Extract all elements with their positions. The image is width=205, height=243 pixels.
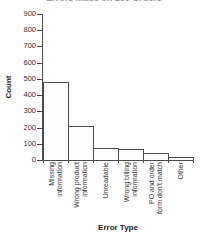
bar-wrong-product-information [68,126,94,161]
x-tick-label-po-and-order-form-don-t-match: PO and orderform don't match [148,162,164,219]
bar-wrong-billing-information [118,149,144,161]
y-tick-mark [37,46,42,47]
x-boundary-tick [68,161,69,163]
y-tick-mark [37,30,42,31]
x-tick-label-missing-information: Missinginformation [48,162,64,219]
x-tick-label-text: Wrong billinginformation [123,162,139,218]
y-tick-label: 600 [12,58,36,67]
y-tick-mark [37,14,42,15]
x-tick-label-text: Unreadable [102,162,110,218]
chart-title-text: Errors Made on 100 Orders [28,0,180,3]
x-boundary-tick [118,161,119,163]
y-tick-mark [37,95,42,96]
x-tick-label-wrong-product-information: Wrong productinformation [73,162,89,219]
y-tick-mark [37,144,42,145]
x-boundary-tick [93,161,94,163]
bar-other [168,157,194,161]
y-tick-label: 700 [12,41,36,50]
x-boundary-tick [143,161,144,163]
bar-po-and-order-form-don-t-match [143,153,169,161]
x-tick-label-text: Wrong productinformation [73,162,89,218]
y-tick-mark [37,160,42,161]
y-tick-label: 500 [12,74,36,83]
x-boundary-tick [193,161,194,163]
y-tick-mark [37,63,42,64]
bar-unreadable [93,148,119,161]
y-tick-label: 0 [12,155,36,164]
x-boundary-tick [43,161,44,163]
x-tick-label-text: Other [177,162,185,218]
y-tick-mark [37,79,42,80]
bar-missing-information [43,82,69,161]
x-boundary-tick [168,161,169,163]
x-axis-label: Error Type [42,223,194,232]
y-tick-label: 200 [12,123,36,132]
x-tick-label-wrong-billing-information: Wrong billinginformation [123,162,139,219]
clipped-chart-title: Errors Made on 100 Orders [28,0,180,3]
y-tick-label: 300 [12,106,36,115]
y-tick-label: 900 [12,9,36,18]
x-tick-label-unreadable: Unreadable [102,162,110,219]
y-tick-label: 100 [12,139,36,148]
y-tick-label: 800 [12,25,36,34]
x-tick-label-text: Missinginformation [48,162,64,218]
x-tick-label-text: PO and orderform don't match [148,162,164,218]
pareto-chart-figure: Errors Made on 100 Orders Count 01002003… [0,0,205,243]
x-tick-label-other: Other [177,162,185,219]
y-tick-mark [37,111,42,112]
y-tick-mark [37,128,42,129]
y-tick-label: 400 [12,90,36,99]
